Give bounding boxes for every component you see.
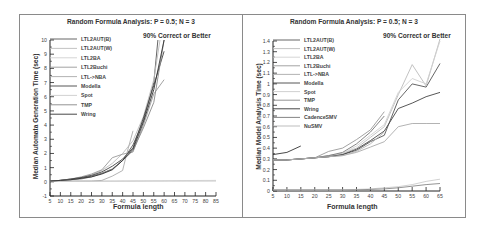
- series-line: [50, 40, 160, 181]
- legend-label: LTL->NBA: [304, 71, 329, 77]
- chart-panel-automata-generation: Random Formula Analysis: P = 0.5; N = 3 …: [19, 14, 243, 218]
- legend-label: Wring: [304, 106, 319, 112]
- x-tick-label: 45: [130, 198, 136, 204]
- x-tick-label: 75: [192, 198, 198, 204]
- legend-label: TMP: [304, 97, 315, 103]
- y-tick-label: 1.3: [263, 49, 270, 55]
- x-tick-label: 35: [354, 193, 360, 199]
- y-tick-label: 1.1: [263, 70, 270, 76]
- x-tick-label: 5: [272, 193, 275, 199]
- y-tick-label: 6: [44, 94, 47, 100]
- legend-label: LTL2Buchi: [81, 64, 108, 70]
- y-tick-label: 7: [44, 80, 47, 86]
- y-tick-label: 0.4: [263, 145, 270, 151]
- x-tick-label: 25: [89, 198, 95, 204]
- y-tick-label: 10: [41, 37, 47, 43]
- x-tick-label: 60: [161, 198, 167, 204]
- y-tick-label: 5: [44, 108, 47, 114]
- x-tick-label: 40: [120, 198, 126, 204]
- x-tick-label: 25: [326, 193, 332, 199]
- series-line: [50, 51, 164, 181]
- legend-label: LTL2BA: [304, 54, 324, 60]
- y-tick-label: 0.9: [263, 92, 270, 98]
- y-tick-label: 0.5: [263, 134, 270, 140]
- x-tick-label: 45: [381, 193, 387, 199]
- x-tick-label: 50: [140, 198, 146, 204]
- y-tick-label: 1.2: [263, 59, 270, 65]
- y-tick-label: 0.7: [263, 113, 270, 119]
- legend-label: Modella: [304, 80, 323, 86]
- y-tick-label: 1.4: [263, 38, 270, 44]
- legend-label: LTL2AUT(W): [304, 46, 335, 52]
- x-tick-label: 15: [68, 198, 74, 204]
- x-tick-label: 15: [298, 193, 304, 199]
- y-tick-label: -1: [42, 193, 47, 199]
- x-tick-label: 20: [312, 193, 318, 199]
- y-tick-label: 9: [44, 51, 47, 57]
- x-tick-label: 55: [409, 193, 415, 199]
- plot-area: 510152025303540455055606500.10.20.30.40.…: [243, 15, 467, 219]
- x-tick-label: 30: [340, 193, 346, 199]
- series-line: [50, 80, 164, 181]
- x-tick-label: 30: [99, 198, 105, 204]
- y-tick-label: 8: [44, 65, 47, 71]
- x-tick-label: 65: [437, 193, 443, 199]
- legend-label: LTL2AUT(B): [81, 36, 111, 42]
- y-tick-label: 0.2: [263, 167, 270, 173]
- x-tick-label: 20: [78, 198, 84, 204]
- y-tick-label: 1: [267, 81, 270, 87]
- y-tick-label: 2: [44, 150, 47, 156]
- legend-label: LTL2BA: [81, 55, 101, 61]
- x-tick-label: 5: [49, 198, 52, 204]
- legend-label: Spot: [81, 92, 93, 98]
- legend-label: TMP: [81, 102, 92, 108]
- x-tick-label: 70: [182, 198, 188, 204]
- y-tick-label: 4: [44, 122, 47, 128]
- legend-label: LTL2AUT(B): [304, 37, 334, 43]
- x-tick-label: 80: [203, 198, 209, 204]
- x-tick-label: 85: [213, 198, 219, 204]
- legend-label: LTL2AUT(W): [81, 45, 112, 51]
- x-tick-label: 65: [172, 198, 178, 204]
- legend-label: LTL->NBA: [81, 74, 106, 80]
- legend-label: NuSMV: [304, 123, 323, 129]
- series-line: [273, 146, 301, 155]
- series-line: [50, 40, 158, 181]
- series-line: [273, 124, 440, 160]
- x-tick-label: 10: [284, 193, 290, 199]
- legend-label: Wring: [81, 111, 96, 117]
- legend-label: LTL2Buchi: [304, 63, 331, 69]
- chart-panel-model-analysis: Random Formula Analysis: P = 0.5; N = 3 …: [242, 14, 466, 218]
- x-tick-label: 50: [395, 193, 401, 199]
- y-tick-label: 1: [44, 165, 47, 171]
- y-tick-label: 0: [44, 179, 47, 185]
- plot-area: 510152025303540455055606570758085-101234…: [20, 15, 244, 219]
- series-line: [50, 40, 164, 181]
- x-tick-label: 55: [151, 198, 157, 204]
- legend-label: Modella: [81, 83, 100, 89]
- y-tick-label: 0.8: [263, 102, 270, 108]
- y-tick-label: 3: [44, 136, 47, 142]
- y-tick-label: 0.1: [263, 177, 270, 183]
- legend-label: CadenceSMV: [304, 114, 337, 120]
- legend-label: Spot: [304, 89, 316, 95]
- x-tick-label: 35: [109, 198, 115, 204]
- x-tick-label: 40: [368, 193, 374, 199]
- x-tick-label: 10: [57, 198, 63, 204]
- y-tick-label: 0: [267, 188, 270, 194]
- y-tick-label: 0.3: [263, 156, 270, 162]
- x-tick-label: 60: [423, 193, 429, 199]
- y-tick-label: 0.6: [263, 124, 270, 130]
